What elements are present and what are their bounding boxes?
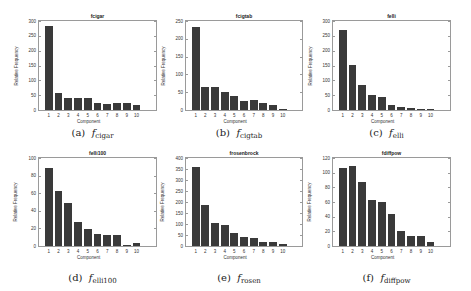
y-tick-mark [333,21,335,22]
bar [230,233,238,246]
plot-area [38,20,157,111]
caption-letter: (b) [216,127,230,138]
y-tick-mark [39,193,41,194]
bar [378,202,386,246]
bar [55,93,63,111]
y-tick-mark [448,173,450,174]
y-tick-mark [186,180,188,181]
y-tick-mark [333,66,335,67]
y-tick-mark [39,95,41,96]
subfigure-caption: (d) felli100 [28,272,157,285]
y-tick-mark [300,213,302,214]
x-tick-label: 10 [277,113,289,118]
y-tick-mark [154,246,156,247]
y-tick-label: 400 [167,156,183,161]
chart-title: frosenbrock [185,150,303,156]
y-tick-label: 350 [167,167,183,172]
bar [55,191,63,246]
bar [74,222,82,246]
y-tick-mark [186,92,188,93]
y-tick-label: 300 [20,19,36,24]
y-tick-label: 200 [167,36,183,41]
bar [221,225,229,246]
y-tick-label: 0 [20,244,36,249]
y-tick-label: 150 [167,54,183,59]
bar [45,168,53,246]
x-axis-label: Component [332,119,433,124]
y-tick-mark [333,202,335,203]
bar [427,109,435,110]
y-tick-label: 100 [20,156,36,161]
x-tick-label: 10 [277,249,289,254]
y-axis-label: Relative Frequency [160,20,166,111]
y-tick-label: 100 [314,170,330,175]
y-tick-mark [300,57,302,58]
y-tick-label: 100 [167,72,183,77]
y-tick-label: 50 [167,233,183,238]
y-tick-mark [186,110,188,111]
y-tick-label: 150 [314,63,330,68]
y-tick-mark [333,173,335,174]
caption-subscript: elli100 [93,277,117,285]
y-tick-mark [186,213,188,214]
bar [427,242,435,246]
x-tick-label: 10 [425,249,437,254]
bar [230,96,238,110]
y-tick-mark [448,187,450,188]
bar [378,97,386,110]
y-tick-mark [448,158,450,159]
bar [417,109,425,110]
chart-title: fdiffpow [332,150,451,156]
chart-title: fcigar [38,13,157,19]
bar [407,108,415,110]
y-tick-mark [154,51,156,52]
caption-letter: (c) [369,127,382,138]
y-tick-label: 250 [314,33,330,38]
y-axis-label: Relative Frequency [307,157,313,247]
bar [221,92,229,111]
subfigure-caption: (a) fcigar [28,127,157,140]
caption-subscript: cigar [95,132,113,140]
y-tick-label: 150 [20,63,36,68]
y-tick-mark [333,231,335,232]
y-axis-label: Relative Frequency [13,157,19,247]
y-tick-label: 0 [167,244,183,249]
y-tick-mark [154,36,156,37]
x-axis-label: Component [38,255,139,260]
bar [74,98,82,110]
bar [84,229,92,246]
y-tick-mark [39,66,41,67]
x-tick-label: 10 [131,113,143,118]
bar [269,242,277,246]
y-tick-mark [333,187,335,188]
bar [94,103,102,110]
y-tick-label: 0 [167,108,183,113]
y-tick-mark [154,158,156,159]
y-tick-label: 300 [167,178,183,183]
bar [123,103,131,110]
y-tick-mark [39,158,41,159]
y-tick-mark [154,193,156,194]
subfigure-caption: (b) fcigtab [175,127,303,140]
y-tick-mark [186,74,188,75]
y-tick-mark [39,21,41,22]
y-tick-mark [333,51,335,52]
y-axis-label: Relative Frequency [13,20,19,111]
y-tick-mark [39,176,41,177]
y-tick-mark [39,246,41,247]
bar [279,109,287,110]
bar [358,182,366,246]
y-tick-mark [448,217,450,218]
y-tick-mark [333,110,335,111]
y-tick-label: 100 [167,222,183,227]
y-tick-label: 200 [167,200,183,205]
y-tick-label: 100 [20,78,36,83]
chart-title: felli100 [38,150,157,156]
bar [211,87,219,110]
plot-area [185,157,303,247]
y-tick-mark [154,176,156,177]
caption-letter: (d) [68,272,82,283]
y-tick-mark [333,36,335,37]
y-tick-label: 40 [20,208,36,213]
subfigure-caption: (f) fdiffpow [322,272,451,285]
